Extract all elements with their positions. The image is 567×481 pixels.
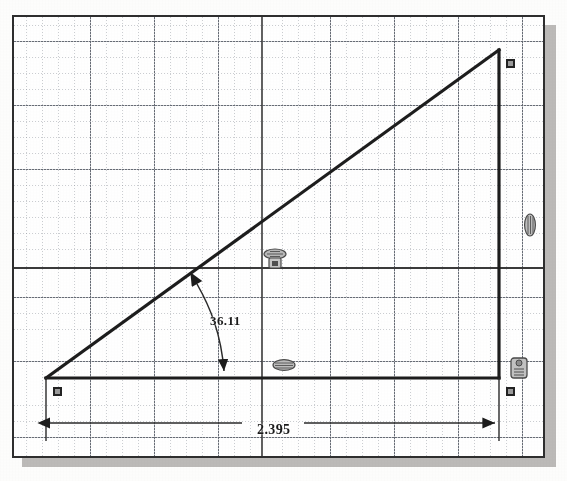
coincident-icon[interactable] [262,247,288,271]
vertical-icon[interactable] [523,213,537,237]
coincident-icon[interactable] [508,356,530,382]
angle-dimension-value[interactable]: 36.11 [210,313,241,329]
sketch-geometry [46,50,499,378]
hypotenuse-line [46,50,499,378]
cad-sketch-canvas[interactable]: 36.11 2.395 [0,0,567,481]
sketch-frame[interactable]: 36.11 2.395 [12,15,545,458]
horizontal-icon[interactable] [272,358,296,372]
length-dimension-value[interactable]: 2.395 [257,422,291,438]
sketch-point-top-right[interactable] [506,59,515,68]
sketch-point-bottom-right[interactable] [506,387,515,396]
sketch-vector-layer [14,17,543,456]
sketch-point-origin[interactable] [53,387,62,396]
origin-axes [14,17,543,456]
